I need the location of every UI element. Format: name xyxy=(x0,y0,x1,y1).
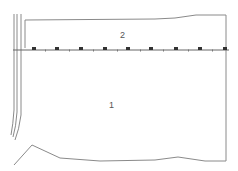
divider-tick xyxy=(188,50,189,52)
plan-drawing xyxy=(0,0,238,171)
region-label-1: 1 xyxy=(109,101,114,110)
divider-tick xyxy=(163,50,164,52)
region-label-2: 2 xyxy=(120,31,125,40)
divider-tick xyxy=(93,50,94,52)
boundary-bottom-line xyxy=(14,145,226,165)
divider-tick xyxy=(140,50,141,52)
boundary-top-line xyxy=(25,15,226,48)
divider-tick xyxy=(212,50,213,52)
divider-tick xyxy=(69,50,70,52)
survey-marker-icon xyxy=(223,47,227,50)
divider-tick xyxy=(45,50,46,52)
survey-marker-icon xyxy=(149,47,153,50)
divider-tick xyxy=(117,50,118,52)
survey-marker-icon xyxy=(174,47,178,50)
survey-marker-icon xyxy=(198,47,202,50)
survey-marker-icon xyxy=(103,47,107,50)
survey-marker-icon xyxy=(32,47,36,50)
survey-marker-icon xyxy=(55,47,59,50)
left-edge-curve-1 xyxy=(11,14,14,135)
survey-marker-icon xyxy=(79,47,83,50)
survey-marker-icon xyxy=(126,47,130,50)
